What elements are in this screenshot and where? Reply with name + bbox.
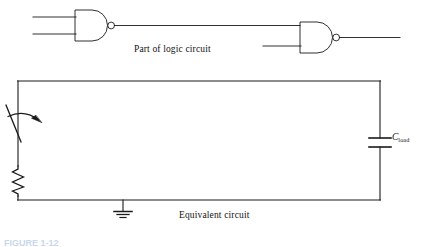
- resistor: [13, 166, 24, 196]
- equivalent-circuit-group: [6, 81, 391, 218]
- nand-gate-right: [263, 22, 400, 53]
- caption-equivalent-circuit: Equivalent circuit: [179, 210, 250, 220]
- figure-number-caption: FIGURE 1-12: [4, 238, 59, 247]
- capacitor-label-subscript: load: [398, 136, 409, 143]
- caption-part-of-logic-circuit: Part of logic circuit: [134, 44, 211, 54]
- capacitor: [369, 138, 391, 147]
- nand-gate-right-body: [301, 22, 333, 53]
- ground-symbol: [114, 200, 132, 218]
- switch: [6, 105, 42, 142]
- figure-root: Part of logic circuit Equivalent circuit…: [0, 0, 421, 247]
- capacitor-label: Cload: [392, 132, 409, 142]
- nand-gate-left: [33, 10, 300, 41]
- nand-gate-right-inversion-bubble: [333, 34, 340, 41]
- nand-gate-left-inversion-bubble: [108, 22, 115, 29]
- nand-gate-left-body: [76, 10, 108, 41]
- logic-circuit-group: [33, 10, 400, 53]
- switch-blade: [6, 105, 21, 142]
